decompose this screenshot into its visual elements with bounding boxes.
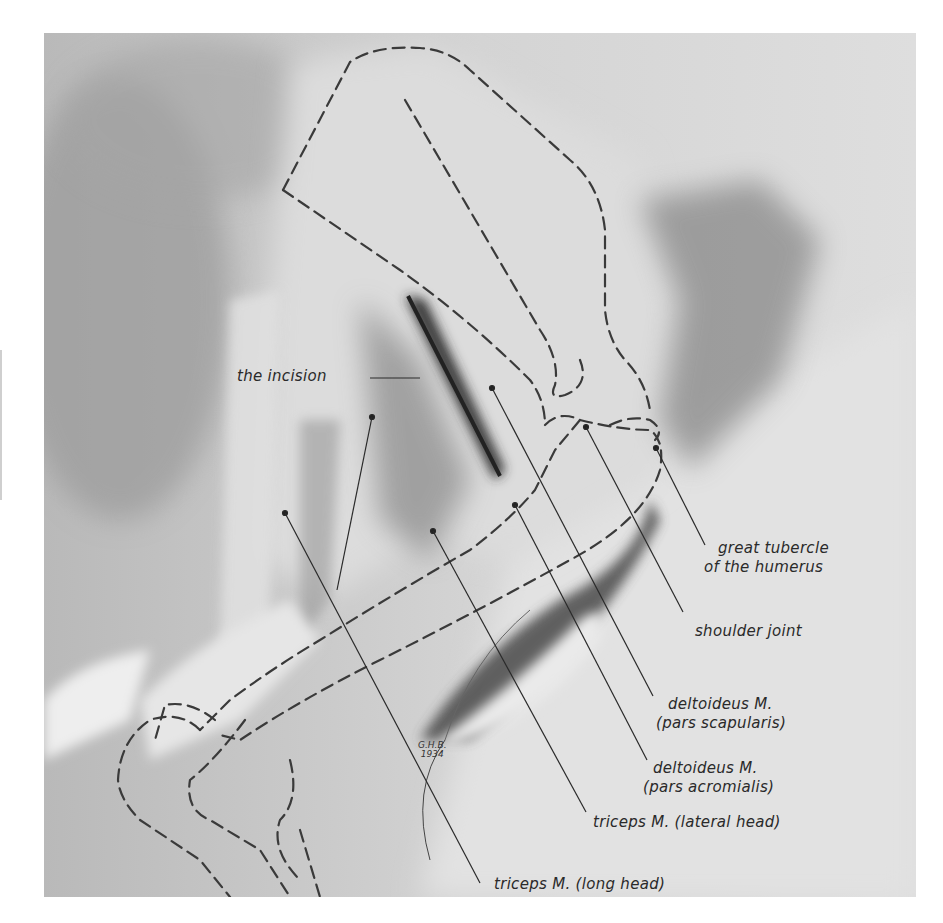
label-triceps-lateral: triceps M. (lateral head) xyxy=(593,813,781,832)
page-edge-mark xyxy=(0,350,2,500)
label-great-tubercle: great tubercle of the humerus xyxy=(704,539,829,577)
label-shoulder-joint: shoulder joint xyxy=(695,622,802,641)
artist-signature: G.H.B. 1934 xyxy=(418,741,447,759)
anatomical-plate: the incision great tubercle of the humer… xyxy=(44,33,916,897)
label-incision: the incision xyxy=(237,367,327,386)
label-triceps-long: triceps M. (long head) xyxy=(494,875,665,894)
label-deltoid-scapular: deltoideus M. (pars scapularis) xyxy=(656,695,786,733)
shoulder-illustration xyxy=(44,33,916,897)
label-deltoid-acromial: deltoideus M. (pars acromialis) xyxy=(643,759,774,797)
